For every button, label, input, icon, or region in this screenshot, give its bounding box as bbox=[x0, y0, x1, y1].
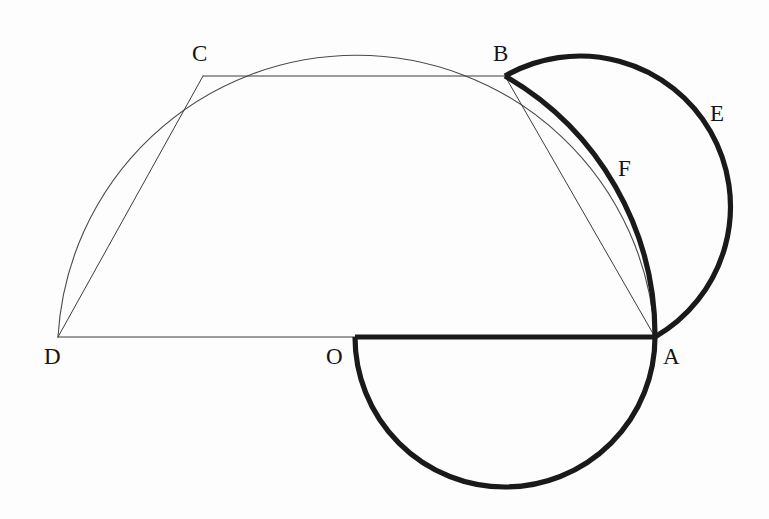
arc-semicircle-DA bbox=[58, 55, 655, 337]
point-label-O: O bbox=[326, 345, 343, 368]
point-label-A: A bbox=[663, 345, 680, 368]
point-label-F: F bbox=[618, 157, 631, 180]
arc-semicircle-OA bbox=[355, 337, 655, 487]
point-label-E: E bbox=[710, 102, 724, 125]
diagram-canvas bbox=[0, 0, 769, 519]
geometry-figure: C B E F D O A bbox=[0, 0, 769, 519]
segment-DC bbox=[58, 76, 203, 337]
point-label-C: C bbox=[192, 42, 207, 65]
point-label-D: D bbox=[44, 345, 61, 368]
point-label-B: B bbox=[493, 42, 508, 65]
segment-BA bbox=[505, 76, 655, 337]
